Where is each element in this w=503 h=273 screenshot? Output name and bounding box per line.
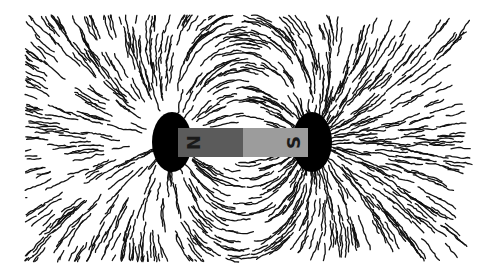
south-label: S <box>283 136 304 149</box>
south-pole: S <box>243 128 308 157</box>
bar-magnet: N S <box>178 128 308 157</box>
north-pole: N <box>178 128 243 157</box>
north-label: N <box>183 135 204 150</box>
